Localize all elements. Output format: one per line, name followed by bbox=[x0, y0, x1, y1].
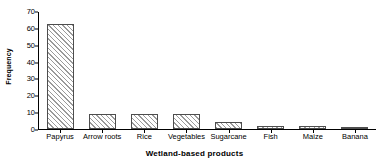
x-axis-tick-labels: PapyrusArrow rootsRiceVegetablesSugarcan… bbox=[39, 133, 376, 141]
bars-layer bbox=[39, 12, 376, 129]
x-tick-label: Papyrus bbox=[39, 133, 81, 141]
y-axis-tick-labels: 010203040506070 bbox=[16, 12, 38, 130]
x-tick-label: Rice bbox=[123, 133, 165, 141]
y-axis-title: Frequency bbox=[0, 0, 16, 132]
y-tick-label: 30 bbox=[27, 76, 35, 84]
bar-slot bbox=[165, 12, 207, 129]
y-tick-label: 60 bbox=[27, 25, 35, 33]
bar[interactable] bbox=[89, 114, 116, 129]
y-tick-label: 40 bbox=[27, 59, 35, 67]
x-tick-label: Vegetables bbox=[165, 133, 207, 141]
x-tick-label: Fish bbox=[250, 133, 292, 141]
bar[interactable] bbox=[299, 126, 326, 129]
y-tick-label: 20 bbox=[27, 93, 35, 101]
x-tick-label: Arrow roots bbox=[81, 133, 123, 141]
bar[interactable] bbox=[47, 24, 74, 129]
bar[interactable] bbox=[257, 126, 284, 129]
bar-slot bbox=[81, 12, 123, 129]
bar[interactable] bbox=[131, 114, 158, 129]
x-axis-line bbox=[38, 129, 376, 130]
bar-slot bbox=[39, 12, 81, 129]
bar-slot bbox=[292, 12, 334, 129]
bar-slot bbox=[123, 12, 165, 129]
plot-area bbox=[38, 12, 376, 130]
y-tick-label: 10 bbox=[27, 109, 35, 117]
bar-slot bbox=[208, 12, 250, 129]
x-tick-label: Maize bbox=[292, 133, 334, 141]
y-axis-title-text: Frequency bbox=[5, 48, 12, 84]
y-tick-label: 50 bbox=[27, 42, 35, 50]
x-tick-label: Sugarcane bbox=[208, 133, 250, 141]
y-tick-label: 70 bbox=[27, 8, 35, 16]
bar[interactable] bbox=[173, 114, 200, 129]
bar[interactable] bbox=[215, 122, 242, 129]
bar-slot bbox=[250, 12, 292, 129]
x-axis-title: Wetland-based products bbox=[0, 149, 389, 158]
bar-slot bbox=[334, 12, 376, 129]
bar[interactable] bbox=[341, 127, 368, 129]
bar-chart: Frequency 010203040506070 PapyrusArrow r… bbox=[0, 0, 389, 168]
x-tick-label: Banana bbox=[334, 133, 376, 141]
